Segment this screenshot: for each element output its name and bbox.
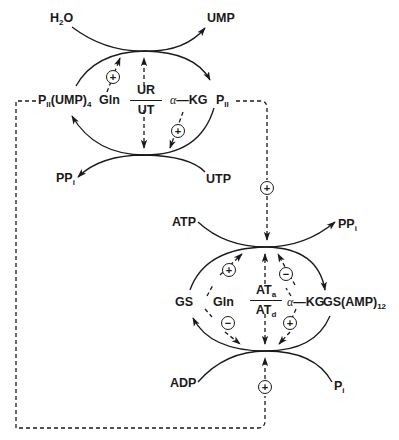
label-bottom-gln: Gln (213, 296, 234, 309)
bottom-gln-to-atd-arrow (225, 332, 240, 344)
label-pii-ump4: PII(UMP)4 (38, 94, 91, 107)
label-atp: ATP (172, 216, 196, 229)
label-top-ppi: PPi (56, 172, 75, 185)
svg-text:−: − (225, 317, 231, 329)
svg-text:+: + (175, 125, 181, 137)
label-gs-amp12: GS(AMP)12 (323, 296, 386, 309)
svg-text:+: + (287, 317, 293, 329)
top-gln-plus-icon: + (107, 71, 120, 84)
label-ump: UMP (207, 12, 235, 25)
feedback-plus-icon: + (259, 381, 272, 394)
top-ellipse-upper-right (145, 51, 210, 80)
label-ut: UT (130, 101, 162, 117)
top-akg-plus-icon: + (172, 125, 185, 138)
label-bottom-ppi: PPi (338, 218, 357, 231)
bottom-ellipse-lower-right (266, 316, 330, 351)
top-substrate-curve (72, 27, 205, 51)
label-h2o: H2O (50, 12, 73, 25)
label-top-gln: Gln (99, 94, 120, 107)
label-ur: UR (130, 84, 162, 100)
label-pi: Pi (334, 380, 345, 393)
bottom-akg-to-atd-arrow (279, 332, 290, 344)
svg-text:+: + (110, 71, 116, 83)
label-adp: ADP (170, 377, 196, 390)
bottom-akg-minus-icon: − (280, 268, 293, 281)
fraction-ur-ut: UR UT (130, 84, 162, 116)
label-gs: GS (175, 296, 193, 309)
svg-text:+: + (226, 264, 232, 276)
bottom-akg-plus-icon: + (284, 317, 297, 330)
top-ellipse-lower-left (72, 116, 145, 155)
label-bottom-akg: α—KG (287, 296, 325, 309)
fraction-ata-atd: ATa ATd (250, 284, 282, 316)
bottom-gln-minus-icon: − (222, 317, 235, 330)
svg-text:−: − (283, 268, 289, 280)
top-bottom-curve (78, 155, 205, 177)
label-ata: ATa (250, 284, 282, 300)
link-plus-icon: + (261, 182, 274, 195)
label-top-akg: α—KG (170, 94, 208, 107)
bottom-gln-dash-down (205, 309, 212, 317)
bottom-gln-plus-icon: + (223, 264, 236, 277)
svg-text:+: + (262, 381, 268, 393)
pii-signal-line (236, 101, 267, 180)
label-utp: UTP (206, 173, 231, 186)
svg-text:+: + (264, 182, 270, 194)
label-atd: ATd (250, 301, 282, 317)
label-pii: PII (216, 94, 229, 107)
